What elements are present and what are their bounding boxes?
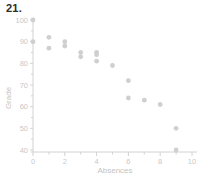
data-point [110,63,115,68]
data-point [31,39,36,44]
x-tick-label: 6 [126,157,130,166]
y-tick-group: 405060708090100 [15,16,33,155]
y-tick-label: 80 [20,59,28,68]
data-point [78,50,83,55]
data-point [126,78,131,83]
data-point [158,102,163,107]
data-point [126,96,131,101]
y-tick-label: 40 [20,146,28,155]
x-tick-label: 4 [95,157,99,166]
data-point [94,52,99,57]
y-tick-label: 60 [20,102,28,111]
x-tick-label: 0 [31,157,35,166]
data-point [31,18,36,23]
data-point [174,148,179,153]
y-tick-label: 90 [20,37,28,46]
x-axis: 0246810 Absences [31,152,197,175]
y-axis-title: Grade [4,86,13,109]
x-axis-title: Absences [97,166,132,175]
data-point [174,126,179,131]
data-point-group [31,18,179,153]
data-point [47,46,52,51]
y-tick-label: 50 [20,124,28,133]
x-tick-label: 2 [63,157,67,166]
data-point [94,59,99,64]
data-point [78,54,83,59]
x-tick-label: 10 [188,157,196,166]
scatter-plot: 405060708090100 Grade 0246810 Absences [0,0,203,178]
y-axis: 405060708090100 Grade [4,16,33,155]
data-point [62,44,67,49]
y-tick-label: 70 [20,81,28,90]
data-point [47,35,52,40]
y-tick-label: 100 [15,16,28,25]
data-point [142,98,147,103]
data-point [62,39,67,44]
x-tick-label: 8 [158,157,162,166]
x-tick-group: 0246810 [31,152,196,166]
